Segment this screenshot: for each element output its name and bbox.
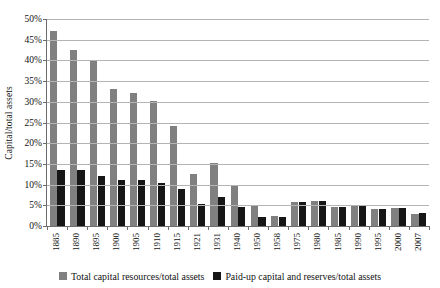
bar [70,50,77,226]
bar [258,217,265,226]
plot-area [46,19,429,227]
bar [379,209,386,226]
y-axis-tick-label: 40% [25,55,42,65]
bar [359,205,366,226]
gridline [47,40,429,41]
y-axis-tickmark [43,102,47,103]
y-axis-tickmark [43,60,47,61]
bar [238,207,245,226]
y-axis-tickmark [43,40,47,41]
bar [218,197,225,226]
bar [399,208,406,226]
bar [271,216,278,226]
bar [77,170,84,226]
y-axis-tick-label: 15% [25,159,42,169]
bar [190,174,197,226]
bar [371,209,378,226]
y-axis-tickmark [43,143,47,144]
bar [419,213,426,226]
y-axis-tick-label: 35% [25,76,42,86]
bar [210,163,217,226]
bar [339,207,346,226]
bar [251,206,258,226]
gridline [47,123,429,124]
y-axis-tickmark [43,81,47,82]
x-axis-tick-labels: 1885189018951900190519101915192119311940… [46,227,428,263]
bar [279,217,286,226]
y-axis-tickmark [43,185,47,186]
gridline [47,205,429,206]
y-axis-tick-label: 50% [25,14,42,24]
legend-label: Total capital resources/total assets [71,271,204,282]
x-axis-tick-label: 2007 [401,227,435,247]
legend-entry: Total capital resources/total assets [59,271,204,282]
y-axis-tick-label: 20% [25,138,42,148]
gridline [47,81,429,82]
y-axis-tickmark [43,19,47,20]
y-axis-tick-label: 45% [25,35,42,45]
legend-swatch-icon [59,272,67,280]
y-axis-title-text: Capital/total assets [4,86,14,160]
bar [391,208,398,226]
gridline [47,60,429,61]
y-axis-tick-label: 25% [25,118,42,128]
gridline [47,19,429,20]
x-axis-tick-label-text: 2007 [413,233,423,251]
gridline [47,143,429,144]
y-axis-tickmark [43,123,47,124]
gridline [47,102,429,103]
chart-root: Capital/total assets 0%5%10%15%20%25%30%… [0,0,440,288]
bar [198,204,205,226]
bar [138,180,145,226]
y-axis-tick-label: 5% [29,200,42,210]
legend-label: Paid-up capital and reserves/total asset… [225,271,381,282]
legend-swatch-icon [213,272,221,280]
bar [178,189,185,226]
gridline [47,185,429,186]
chart-legend: Total capital resources/total assetsPaid… [0,267,440,285]
bar [331,207,338,226]
bar [57,170,64,226]
bar [411,214,418,226]
gridline [47,164,429,165]
y-axis-tick-labels: 0%5%10%15%20%25%30%35%40%45%50% [14,0,44,245]
bar [170,126,177,226]
bar [351,205,358,226]
y-axis-tick-label: 10% [25,180,42,190]
bar [118,180,125,226]
y-axis-tickmark [43,205,47,206]
y-axis-tickmark [43,164,47,165]
legend-entry: Paid-up capital and reserves/total asset… [213,271,381,282]
y-axis-tick-label: 30% [25,97,42,107]
